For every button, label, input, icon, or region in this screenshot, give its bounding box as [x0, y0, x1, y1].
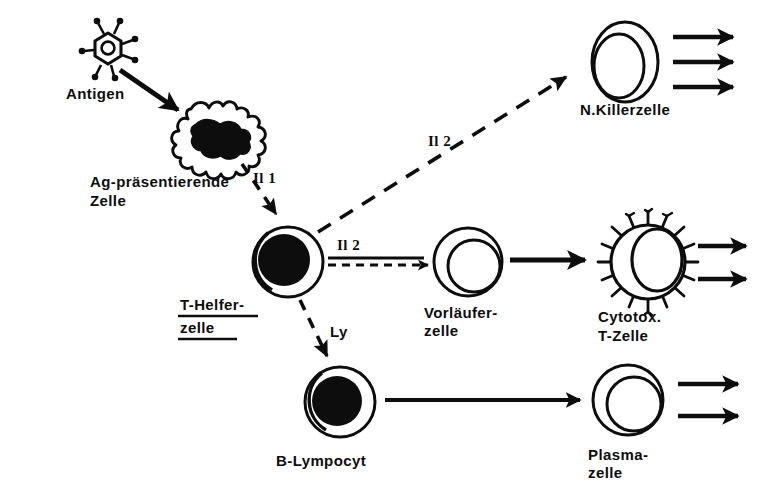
t-helper-node[interactable]: T-Helfer- zelle: [178, 227, 323, 339]
cell-light-nucleus-icon: [434, 228, 502, 296]
il2-middle-label: Il 2: [337, 237, 360, 253]
edge-thelper-to-blymph: Ly: [300, 300, 348, 356]
il2-upper-label: Il 2: [428, 133, 451, 149]
ly-label: Ly: [330, 323, 348, 340]
plasma-label-line1: Plasma-: [588, 446, 648, 463]
il2-upper-dashed-arrow: [318, 77, 566, 232]
plasma-output-arrows: [678, 384, 738, 416]
edge-apc-to-thelper: Il 1: [242, 164, 276, 214]
ly-dashed-arrow: [300, 300, 327, 356]
cytotox-output-arrows: [698, 246, 746, 279]
amoeboid-cell-icon: [172, 102, 266, 179]
b-lymphocyte-node[interactable]: B-Lympocyt: [276, 367, 375, 469]
b-lymphocyte-label: B-Lympocyt: [276, 452, 366, 469]
cell-light-nucleus-icon: [593, 365, 663, 435]
il1-label: Il 1: [253, 170, 276, 186]
cell-dark-nucleus-icon: [253, 227, 323, 297]
precursor-cell-node[interactable]: Vorläufer- zelle: [424, 228, 502, 339]
plasma-cell-node[interactable]: Plasma- zelle: [588, 365, 738, 481]
antigen-node[interactable]: Antigen: [66, 18, 138, 102]
nk-output-arrows: [673, 37, 733, 87]
cytotox-label-line2: T-Zelle: [598, 327, 648, 344]
precursor-label-line2: zelle: [424, 322, 459, 339]
edge-thelper-to-nk: Il 2: [318, 77, 566, 232]
diagram-canvas: Antigen Ag-präsentierende Zelle Il 1: [0, 0, 760, 488]
precursor-label-line1: Vorläufer-: [424, 304, 498, 321]
apc-label-line1: Ag-präsentierende: [90, 173, 229, 190]
edge-antigen-to-apc: [120, 70, 178, 110]
t-helper-label-line2: zelle: [180, 319, 215, 336]
cell-light-nucleus-icon: [592, 22, 658, 102]
spiked-cell-icon: [598, 209, 698, 315]
cytotox-label-line1: Cytotox.: [598, 308, 661, 325]
antigen-label: Antigen: [66, 85, 125, 102]
apc-node[interactable]: Ag-präsentierende Zelle: [90, 102, 265, 209]
cell-dark-nucleus-icon: [305, 367, 375, 437]
apc-label-line2: Zelle: [90, 192, 126, 209]
nk-cell-label: N.Killerzelle: [580, 101, 670, 118]
virus-particle-icon: [79, 18, 139, 82]
antigen-to-apc-arrow: [120, 70, 178, 110]
cytotox-t-cell-node[interactable]: Cytotox. T-Zelle: [598, 209, 746, 344]
plasma-label-line2: zelle: [588, 464, 623, 481]
edge-thelper-to-precursor: Il 2: [328, 237, 428, 265]
immune-response-diagram: Antigen Ag-präsentierende Zelle Il 1: [0, 0, 760, 488]
t-helper-label-line1: T-Helfer-: [180, 296, 244, 313]
nk-cell-node[interactable]: N.Killerzelle: [580, 22, 733, 118]
